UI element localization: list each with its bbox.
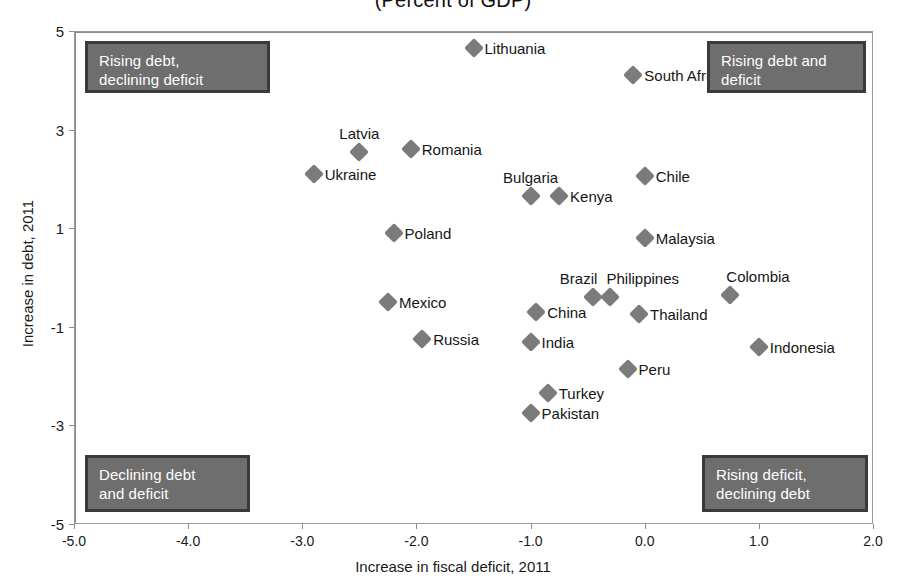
quadrant-callout-top-left: Rising debt, declining deficit <box>85 41 270 93</box>
data-point-label: Brazil <box>560 271 598 286</box>
x-tick-label: 1.0 <box>749 533 768 549</box>
horizontal-zero-reference-line <box>75 32 872 33</box>
y-tick-mark <box>69 425 74 426</box>
quadrant-callout-top-right: Rising debt and deficit <box>707 41 866 93</box>
data-point-label: China <box>547 305 586 320</box>
y-tick-mark <box>69 524 74 525</box>
x-tick-mark <box>302 524 303 529</box>
data-point-label: Colombia <box>726 269 789 284</box>
quadrant-callout-bottom-right: Rising deficit, declining debt <box>702 455 868 512</box>
data-point-label: Thailand <box>650 307 708 322</box>
x-tick-label: -3.0 <box>290 533 314 549</box>
x-tick-label: 0.0 <box>635 533 654 549</box>
y-tick-mark <box>69 31 74 32</box>
x-tick-label: -5.0 <box>62 533 86 549</box>
x-tick-mark <box>759 524 760 529</box>
x-tick-label: -4.0 <box>176 533 200 549</box>
data-point-label: Bulgaria <box>503 170 558 185</box>
x-axis-title: Increase in fiscal deficit, 2011 <box>0 558 906 575</box>
data-point-label: Russia <box>433 332 479 347</box>
x-tick-mark <box>645 524 646 529</box>
y-tick-mark <box>69 327 74 328</box>
scatter-chart-figure: (Percent of GDP) -5.0-4.0-3.0-2.0-1.00.0… <box>0 0 906 588</box>
data-point-label: Philippines <box>606 271 679 286</box>
x-tick-label: 2.0 <box>863 533 882 549</box>
x-tick-label: -2.0 <box>404 533 428 549</box>
chart-title: (Percent of GDP) <box>0 0 906 12</box>
x-tick-mark <box>873 524 874 529</box>
x-tick-mark <box>416 524 417 529</box>
data-point-label: Malaysia <box>656 231 715 246</box>
x-tick-mark <box>531 524 532 529</box>
vertical-zero-reference-line <box>75 32 76 523</box>
y-tick-mark <box>69 228 74 229</box>
data-point-label: Lithuania <box>485 41 546 56</box>
data-point-label: Ukraine <box>325 167 377 182</box>
data-point-label: Pakistan <box>542 406 600 421</box>
data-point-label: India <box>542 335 575 350</box>
x-tick-label: -1.0 <box>519 533 543 549</box>
y-tick-mark <box>69 130 74 131</box>
data-point-label: Chile <box>656 169 690 184</box>
data-point-label: Latvia <box>339 126 379 141</box>
data-point-label: Mexico <box>399 295 447 310</box>
y-axis-title: Increase in debt, 2011 <box>19 74 36 474</box>
data-point-label: Turkey <box>559 386 604 401</box>
data-point-label: Romania <box>422 142 482 157</box>
x-tick-mark <box>74 524 75 529</box>
data-point-label: Kenya <box>570 189 613 204</box>
data-point-label: Indonesia <box>770 340 835 355</box>
y-tick-label: -5 <box>28 516 64 533</box>
data-point-label: Poland <box>405 226 452 241</box>
quadrant-callout-bottom-left: Declining debt and deficit <box>85 455 250 512</box>
data-point-label: Peru <box>639 362 671 377</box>
y-tick-label: 5 <box>28 23 64 40</box>
x-tick-mark <box>188 524 189 529</box>
